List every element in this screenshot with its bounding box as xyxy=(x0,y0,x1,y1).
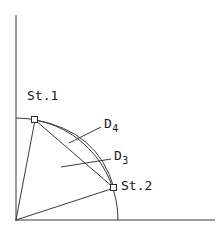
distance-d3-label: D3 xyxy=(114,149,128,166)
radius-line-station-1 xyxy=(16,120,35,220)
distance-d3-base: D xyxy=(114,148,122,163)
distance-d3-subscript: 3 xyxy=(122,155,128,166)
station-2-label: St.2 xyxy=(121,179,152,192)
outer-arc xyxy=(16,118,118,220)
distance-d4-label: D4 xyxy=(104,117,118,134)
station-1-label: St.1 xyxy=(27,89,58,102)
geometry-diagram: St.1 D4 D3 St.2 xyxy=(0,0,221,231)
distance-d4-subscript: 4 xyxy=(112,123,118,134)
leader-line-d4 xyxy=(69,127,101,143)
station-1-marker xyxy=(32,117,38,123)
radius-line-station-2 xyxy=(16,188,114,220)
distance-d4-base: D xyxy=(104,116,112,131)
station-2-marker xyxy=(111,185,117,191)
chord-line-d3 xyxy=(35,120,114,188)
